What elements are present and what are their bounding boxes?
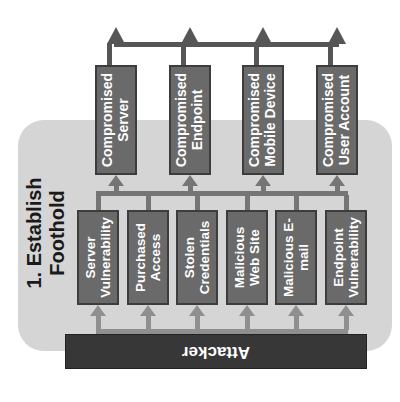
arrowhead-to-outcome-4-icon bbox=[329, 175, 345, 186]
outcome-box-compromised-mobile-device: Compromised Mobile Device bbox=[242, 65, 284, 175]
arrowhead-to-outcome-2-icon bbox=[182, 175, 198, 186]
exit-arrowhead-4-icon bbox=[328, 27, 346, 44]
method-label: Malicious E-mail bbox=[281, 212, 311, 303]
outcome-box-compromised-server: Compromised Server bbox=[95, 65, 137, 175]
method-label: Malicious Web Site bbox=[232, 212, 262, 303]
method-label: Purchased Access bbox=[133, 212, 163, 303]
arrowhead-to-method-3-icon bbox=[189, 305, 205, 316]
arrowhead-to-method-5-icon bbox=[288, 305, 304, 316]
arrowhead-to-method-6-icon bbox=[338, 305, 354, 316]
attacker-label: Attacker bbox=[182, 341, 250, 361]
method-box-malicious-email: Malicious E-mail bbox=[275, 210, 317, 305]
outcome-label: Compromised Server bbox=[100, 67, 131, 173]
exit-shaft-outcome-3 bbox=[254, 43, 259, 65]
exit-connector-line bbox=[114, 42, 339, 47]
outcome-box-compromised-user-account: Compromised User Account bbox=[316, 65, 358, 175]
outcome-label: Compromised Endpoint bbox=[174, 67, 205, 173]
arrow-shaft-to-method-1 bbox=[96, 315, 101, 330]
method-label: Stolen Credentials bbox=[182, 212, 212, 303]
method-label: Server Vulnerability bbox=[83, 212, 113, 303]
exit-shaft-outcome-1 bbox=[107, 43, 112, 65]
method-box-server-vulnerability: Server Vulnerability bbox=[77, 210, 119, 305]
attacker-box: Attacker bbox=[65, 334, 367, 369]
exit-arrowhead-2-icon bbox=[181, 27, 199, 44]
arrowhead-to-method-1-icon bbox=[90, 305, 106, 316]
phase-title: 1. Establish Foothold bbox=[23, 177, 69, 289]
outcome-box-compromised-endpoint: Compromised Endpoint bbox=[169, 65, 211, 175]
outcome-label: Compromised Mobile Device bbox=[247, 67, 278, 173]
methods-bus-line bbox=[96, 191, 348, 196]
method-box-endpoint-vulnerability: Endpoint Vulnerability bbox=[325, 210, 367, 305]
establish-foothold-diagram: 1. Establish Foothold bbox=[0, 0, 400, 400]
exit-arrowhead-1-icon bbox=[107, 27, 125, 44]
diagram-stage: 1. Establish Foothold bbox=[0, 0, 400, 402]
arrow-shaft-to-method-5 bbox=[294, 315, 299, 330]
arrow-shaft-to-method-4 bbox=[245, 315, 250, 330]
method-box-stolen-credentials: Stolen Credentials bbox=[176, 210, 218, 305]
method-box-malicious-web-site: Malicious Web Site bbox=[226, 210, 268, 305]
arrowhead-to-method-2-icon bbox=[140, 305, 156, 316]
method-box-purchased-access: Purchased Access bbox=[127, 210, 169, 305]
arrowhead-to-method-4-icon bbox=[239, 305, 255, 316]
exit-arrowhead-3-icon bbox=[254, 27, 272, 44]
exit-shaft-outcome-2 bbox=[181, 43, 186, 65]
arrow-shaft-to-method-3 bbox=[195, 315, 200, 330]
exit-shaft-outcome-4 bbox=[328, 43, 333, 65]
arrowhead-to-outcome-1-icon bbox=[108, 175, 124, 186]
arrowhead-to-outcome-3-icon bbox=[255, 175, 271, 186]
arrow-shaft-to-method-6 bbox=[344, 315, 349, 330]
arrow-shaft-to-method-2 bbox=[146, 315, 151, 330]
method-label: Endpoint Vulnerability bbox=[331, 212, 361, 303]
outcome-label: Compromised User Account bbox=[321, 67, 352, 173]
